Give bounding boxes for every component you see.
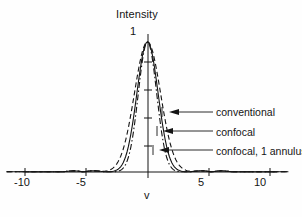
x-tick-label-10: 10 [254, 176, 266, 188]
chart-figure: Intensity 1 -10 -5 5 10 v conventional c… [0, 0, 302, 217]
chart-title: Intensity [116, 8, 158, 20]
annotation-label-conventional: conventional [216, 106, 275, 118]
x-axis-label: v [144, 189, 150, 201]
annotation-label-confocal: confocal [216, 126, 255, 138]
x-tick-label-neg10: -10 [14, 176, 30, 188]
annotation-label-confocal-annulus: confocal, 1 annulus [216, 145, 302, 157]
x-tick-label-5: 5 [198, 176, 204, 188]
annotation-leaders [153, 107, 213, 155]
x-tick-label-neg5: -5 [76, 176, 86, 188]
y-tick-label-1: 1 [130, 25, 136, 37]
